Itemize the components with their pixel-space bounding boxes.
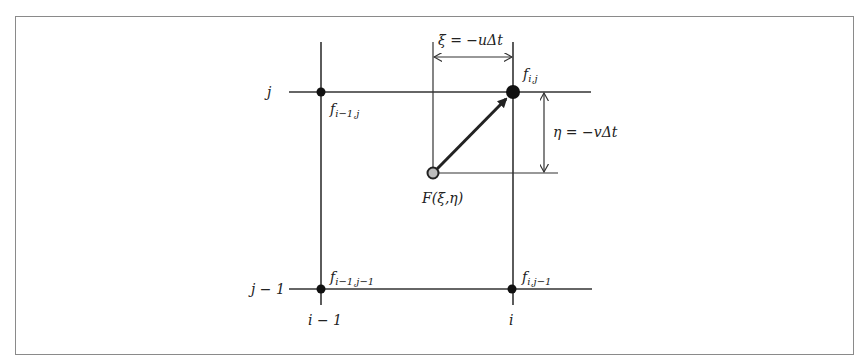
row-label-j: j (264, 84, 272, 100)
node-f-im1-jm1 (317, 285, 326, 294)
node-label-f-i-jm1: fi,j−1 (521, 269, 551, 287)
departure-point (428, 168, 439, 179)
node-f-im1-j (317, 88, 326, 97)
departure-point-label: F(ξ,η) (421, 190, 463, 206)
col-label-i: i (509, 312, 513, 328)
node-f-i-jm1 (508, 285, 517, 294)
trajectory-arrow (437, 99, 506, 169)
col-label-i-minus-1: i − 1 (308, 312, 342, 328)
xi-dimension-label: ξ = −uΔt (438, 32, 503, 48)
node-label-f-i-j: fi,j (522, 66, 538, 84)
node-label-f-im1-j: fi−1,j (329, 101, 359, 119)
eta-dimension-label: η = −vΔt (553, 124, 618, 140)
row-label-j-minus-1: j − 1 (248, 281, 285, 297)
semi-lagrangian-grid-diagram: j j − 1 i − 1 i fi−1,j fi,j fi−1,j−1 fi,… (0, 0, 868, 364)
node-f-i-j (506, 85, 520, 99)
node-label-f-im1-jm1: fi−1,j−1 (329, 269, 374, 287)
